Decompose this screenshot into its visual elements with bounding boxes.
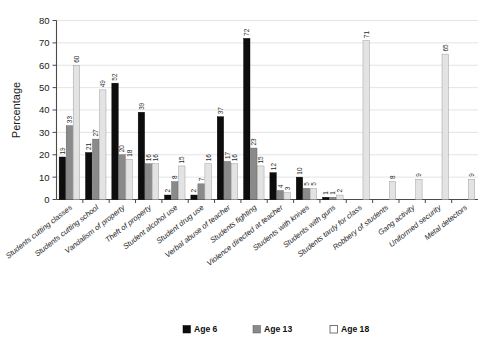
- bars-layer: [59, 38, 475, 199]
- bar-value-label-2-1: 20: [118, 145, 125, 153]
- bar-value-label-9-0: 10: [296, 167, 303, 175]
- bar-value-label-7-1: 23: [250, 138, 257, 146]
- chart-legend: Age 6Age 13Age 18: [183, 324, 369, 334]
- bar-value-label-4-2: 15: [178, 156, 185, 164]
- bar-value-label-3-0: 39: [138, 102, 145, 110]
- bar-14-2[interactable]: [442, 54, 448, 199]
- bar-0-2[interactable]: [73, 65, 79, 199]
- bar-12-2[interactable]: [389, 182, 395, 200]
- bar-value-label-3-1: 16: [145, 154, 152, 162]
- bar-5-1[interactable]: [198, 184, 204, 200]
- bar-4-2[interactable]: [179, 166, 185, 200]
- bar-9-1[interactable]: [303, 188, 309, 199]
- y-tick-label-50: 50: [39, 82, 50, 93]
- bar-10-0[interactable]: [323, 197, 329, 199]
- bar-7-2[interactable]: [258, 166, 264, 200]
- bar-7-1[interactable]: [251, 148, 257, 199]
- bar-9-2[interactable]: [310, 188, 316, 199]
- bar-value-label-5-1: 7: [198, 177, 205, 181]
- bar-value-label-8-1: 4: [277, 184, 284, 188]
- bar-7-0[interactable]: [244, 38, 250, 199]
- bar-9-0[interactable]: [296, 177, 302, 199]
- bar-value-label-12-2: 8: [389, 175, 396, 179]
- bar-value-label-7-0: 72: [243, 28, 250, 36]
- x-axis-category-labels: Students cutting classesStudents cutting…: [4, 202, 469, 268]
- legend-label-0: Age 6: [194, 324, 218, 334]
- bar-value-label-1-1: 27: [92, 129, 99, 137]
- y-tick-label-60: 60: [39, 60, 50, 71]
- bar-value-label-8-0: 12: [270, 163, 277, 171]
- bar-value-label-2-0: 52: [111, 73, 118, 81]
- school-safety-bar-chart: 01020304050607080Percentage1933602127495…: [0, 0, 486, 354]
- bar-2-0[interactable]: [112, 83, 118, 199]
- bar-8-1[interactable]: [277, 191, 283, 200]
- legend-swatch-1: [253, 326, 261, 334]
- y-tick-label-0: 0: [44, 194, 49, 205]
- legend-swatch-2: [330, 326, 338, 334]
- bar-1-0[interactable]: [85, 153, 91, 200]
- bar-value-label-0-2: 60: [73, 55, 80, 63]
- bar-10-2[interactable]: [337, 195, 343, 199]
- bar-value-label-6-1: 17: [224, 151, 231, 159]
- bar-0-1[interactable]: [66, 126, 72, 200]
- y-tick-label-20: 20: [39, 149, 50, 160]
- bar-value-label-14-2: 65: [442, 44, 449, 52]
- legend-label-2: Age 18: [341, 324, 369, 334]
- y-axis-title: Percentage: [10, 82, 22, 138]
- y-tick-label-70: 70: [39, 37, 50, 48]
- bar-6-2[interactable]: [231, 164, 237, 200]
- bar-3-0[interactable]: [138, 112, 144, 199]
- bar-value-label-11-2: 71: [363, 31, 370, 39]
- bar-value-label-1-0: 21: [85, 142, 92, 150]
- bar-chart-container: 01020304050607080Percentage1933602127495…: [0, 0, 486, 354]
- bar-4-1[interactable]: [172, 182, 178, 200]
- y-tick-label-40: 40: [39, 104, 50, 115]
- y-axis: 01020304050607080: [39, 15, 57, 205]
- bar-8-0[interactable]: [270, 173, 276, 200]
- bar-value-label-4-1: 8: [171, 175, 178, 179]
- bar-1-1[interactable]: [93, 139, 99, 199]
- bar-value-label-5-2: 16: [205, 154, 212, 162]
- bar-3-1[interactable]: [145, 164, 151, 200]
- bar-value-label-4-0: 2: [164, 189, 171, 193]
- bar-6-0[interactable]: [217, 117, 223, 200]
- bar-0-0[interactable]: [59, 157, 65, 200]
- bar-4-0[interactable]: [165, 195, 171, 199]
- bar-value-label-0-0: 19: [59, 147, 66, 155]
- bar-value-label-8-2: 3: [284, 186, 291, 190]
- bar-15-2[interactable]: [468, 179, 474, 199]
- bar-value-label-6-2: 16: [231, 154, 238, 162]
- legend-swatch-0: [183, 326, 191, 334]
- bar-value-label-0-1: 33: [66, 116, 73, 124]
- bar-value-label-10-2: 2: [336, 189, 343, 193]
- grid-lines: [57, 21, 479, 178]
- bar-value-label-10-0: 1: [322, 191, 329, 195]
- bar-value-label-5-0: 2: [190, 189, 197, 193]
- bar-value-label-13-2: 9: [415, 173, 422, 177]
- y-tick-label-30: 30: [39, 127, 50, 138]
- bar-value-label-6-0: 37: [217, 107, 224, 115]
- bar-13-2[interactable]: [416, 179, 422, 199]
- bar-value-label-2-2: 18: [126, 149, 133, 157]
- bar-value-label-9-1: 5: [303, 182, 310, 186]
- bar-3-2[interactable]: [152, 164, 158, 200]
- bar-2-1[interactable]: [119, 155, 125, 200]
- bar-value-label-3-2: 16: [152, 154, 159, 162]
- bar-8-2[interactable]: [284, 193, 290, 200]
- bar-5-2[interactable]: [205, 164, 211, 200]
- bar-2-2[interactable]: [126, 159, 132, 199]
- bar-value-label-10-1: 1: [329, 191, 336, 195]
- bar-11-2[interactable]: [363, 41, 369, 200]
- bar-10-1[interactable]: [330, 197, 336, 199]
- bar-6-1[interactable]: [224, 161, 230, 199]
- y-tick-label-80: 80: [39, 15, 50, 26]
- bar-value-label-15-2: 9: [468, 173, 475, 177]
- bar-value-label-7-2: 15: [257, 156, 264, 164]
- bar-value-label-1-2: 49: [99, 80, 106, 88]
- bar-5-0[interactable]: [191, 195, 197, 199]
- y-tick-label-10: 10: [39, 172, 50, 183]
- bar-1-2[interactable]: [100, 90, 106, 200]
- bar-value-label-9-2: 5: [310, 182, 317, 186]
- legend-label-1: Age 13: [264, 324, 292, 334]
